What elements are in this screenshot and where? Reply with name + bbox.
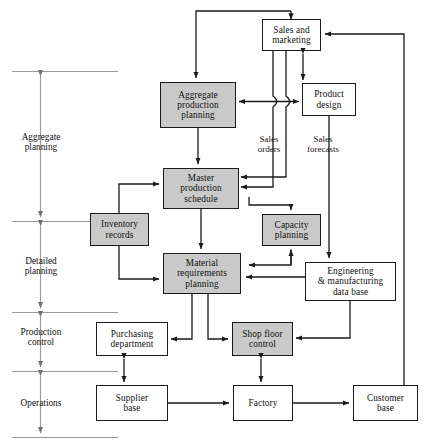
node-inventory-records[interactable]: Inventory records [90,213,149,246]
node-capacity-planning-line2: planning [275,230,309,240]
node-purchasing-department-line2: department [111,339,154,349]
node-sales-marketing-line1: Sales and [272,25,311,35]
axis-label-production-control-line1: Production [0,327,82,337]
edge-label-sales-orders: Sales orders [240,134,298,155]
axis-label-detailed-planning-line1: Detailed [0,256,82,266]
node-material-requirements-planning-line2: requirements [177,268,227,278]
node-factory-line1: Factory [248,398,277,408]
axis-label-aggregate-planning-line1: Aggregate [0,132,82,142]
edge-mrp-to-shopfloor [208,294,228,340]
node-customer-base-line1: Customer [367,393,404,403]
node-product-design-line1: Product [314,89,344,99]
node-product-design[interactable]: Product design [302,83,356,116]
node-customer-base-line2: base [367,403,404,413]
node-factory[interactable]: Factory [233,385,293,421]
edge-label-sales-orders-line2: orders [240,144,298,154]
node-inventory-records-line1: Inventory [101,219,138,229]
axis-scale [12,72,118,438]
node-shop-floor-control-line1: Shop floor [242,329,283,339]
axis-label-operations-line1: Operations [0,398,82,408]
edge-engdb-to-shopfloor [296,301,350,339]
node-purchasing-department[interactable]: Purchasing department [96,322,168,356]
edge-label-sales-orders-line1: Sales [240,134,298,144]
node-inventory-records-line2: records [101,230,138,240]
edge-inventory-to-mps [119,184,159,214]
node-capacity-planning-line1: Capacity [275,220,309,230]
node-engineering-data-base-line2: & manufacturing [318,276,383,286]
axis-label-aggregate-planning-line2: planning [0,142,82,152]
node-aggregate-production-planning-line2: production [177,100,218,110]
node-supplier-base-line2: base [116,403,148,413]
node-product-design-line2: design [314,100,344,110]
node-material-requirements-planning[interactable]: Material requirements planning [163,253,241,294]
diagram-canvas: Aggregate planning Detailed planning Pro… [0,0,426,448]
edge-label-sales-forecasts: Sales forecasts [292,134,354,155]
node-aggregate-production-planning[interactable]: Aggregate production planning [160,82,236,128]
node-master-production-schedule-line3: schedule [180,194,221,204]
node-master-production-schedule-line1: Master [180,173,221,183]
edge-inventory-to-mrp [119,246,159,280]
axis-label-aggregate-planning: Aggregate planning [0,132,82,153]
edge-mrp-to-purchasing [171,294,192,340]
node-master-production-schedule[interactable]: Master production schedule [163,168,239,209]
edge-mps-to-capacity [249,197,291,210]
node-sales-marketing[interactable]: Sales and marketing [262,19,321,51]
node-supplier-base-line1: Supplier [116,393,148,403]
node-material-requirements-planning-line3: planning [177,279,227,289]
axis-label-operations: Operations [0,398,82,408]
node-shop-floor-control[interactable]: Shop floor control [232,322,293,356]
edge-capacity-to-mrp [249,250,291,266]
edge-label-sales-forecasts-line2: forecasts [292,144,354,154]
node-purchasing-department-line1: Purchasing [111,329,154,339]
edge-sales-forecasts-trunk [241,51,290,178]
node-sales-marketing-line2: marketing [272,35,311,45]
node-aggregate-production-planning-line3: planning [177,110,218,120]
node-master-production-schedule-line2: production [180,183,221,193]
axis-label-production-control: Production control [0,327,82,348]
node-customer-base[interactable]: Customer base [353,385,418,421]
axis-label-detailed-planning: Detailed planning [0,256,82,277]
node-engineering-data-base-line3: data base [318,287,383,297]
node-shop-floor-control-line2: control [242,339,283,349]
node-engineering-manufacturing-data-base[interactable]: Engineering & manufacturing data base [305,262,396,301]
node-supplier-base[interactable]: Supplier base [96,385,168,421]
diagram-vector-layer [0,0,426,448]
axis-label-production-control-line2: control [0,337,82,347]
node-capacity-planning[interactable]: Capacity planning [262,214,321,246]
axis-label-detailed-planning-line2: planning [0,266,82,276]
edge-label-sales-forecasts-line1: Sales [292,134,354,144]
node-material-requirements-planning-line1: Material [177,258,227,268]
node-aggregate-production-planning-line1: Aggregate [177,90,218,100]
edge-sales-orders-trunk [241,51,277,188]
node-engineering-data-base-line1: Engineering [318,266,383,276]
